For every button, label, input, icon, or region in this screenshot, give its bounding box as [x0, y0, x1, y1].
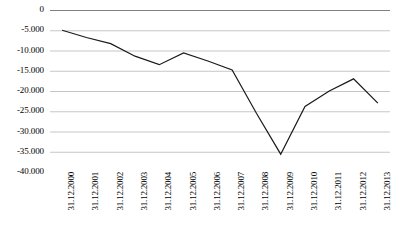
y-tick-label: -30.000: [17, 127, 44, 136]
y-tick-label: -35.000: [17, 147, 44, 156]
x-tick-label: 31.12.2008: [260, 172, 270, 242]
x-tick-label: 31.12.2012: [358, 172, 368, 242]
plot-svg: [50, 10, 390, 172]
x-tick-label: 31.12.2011: [333, 172, 343, 242]
x-tick-label: 31.12.2010: [309, 172, 319, 242]
y-axis: 0-5.000-10.000-15.000-20.000-25.000-30.0…: [0, 0, 48, 180]
x-axis: 31.12.200031.12.200131.12.200231.12.2003…: [50, 172, 390, 245]
x-tick-label: 31.12.2006: [212, 172, 222, 242]
x-tick-label: 31.12.2000: [66, 172, 76, 242]
x-tick-label: 31.12.2007: [236, 172, 246, 242]
x-tick-label: 31.12.2001: [90, 172, 100, 242]
y-tick-label: -15.000: [17, 66, 44, 75]
y-tick-label: -5.000: [21, 25, 44, 34]
y-tick-label: -10.000: [17, 46, 44, 55]
y-tick-label: 0: [40, 5, 44, 14]
x-tick-label: 31.12.2009: [285, 172, 295, 242]
data-series-line: [62, 30, 378, 154]
plot-area: [50, 10, 390, 172]
y-tick-label: -40.000: [17, 167, 44, 176]
x-tick-label: 31.12.2013: [382, 172, 392, 242]
y-tick-label: -20.000: [17, 86, 44, 95]
x-tick-label: 31.12.2003: [139, 172, 149, 242]
x-tick-label: 31.12.2002: [115, 172, 125, 242]
y-tick-label: -25.000: [17, 106, 44, 115]
gridlines: [50, 11, 390, 173]
line-chart: 0-5.000-10.000-15.000-20.000-25.000-30.0…: [0, 0, 406, 245]
x-tick-label: 31.12.2004: [163, 172, 173, 242]
x-tick-label: 31.12.2005: [188, 172, 198, 242]
